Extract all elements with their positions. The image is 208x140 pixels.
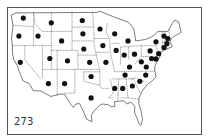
state-marker-dot [112, 86, 117, 91]
state-marker-dot [100, 43, 105, 48]
state-border [64, 69, 75, 93]
state-border [121, 46, 142, 47]
state-marker-dot [143, 73, 148, 78]
state-border [25, 46, 41, 79]
state-marker-dot [130, 83, 135, 88]
state-marker-dot [103, 60, 108, 65]
state-marker-dot [156, 51, 161, 56]
country-outline [11, 11, 181, 125]
state-marker-dot [164, 41, 169, 46]
state-marker-dot [122, 53, 127, 58]
state-marker-dot [35, 34, 40, 39]
state-marker-dot [112, 31, 117, 36]
map-number-label: 273 [14, 116, 34, 127]
state-marker-dot [21, 16, 26, 21]
state-marker-dot [165, 36, 170, 41]
us-map [8, 8, 203, 136]
state-marker-dot [89, 95, 94, 100]
state-marker-dot [153, 56, 158, 61]
state-marker-dot [80, 31, 85, 36]
state-marker-dot [120, 86, 125, 91]
state-marker-dot [18, 60, 23, 65]
us-outline [11, 11, 181, 125]
state-marker-dot [89, 74, 94, 79]
state-marker-dot [80, 18, 85, 23]
state-marker-dot [144, 64, 149, 69]
state-marker-dot [97, 26, 102, 31]
state-marker-dot [132, 52, 137, 57]
state-marker-dot [65, 58, 70, 63]
state-marker-dot [16, 34, 21, 39]
state-marker-dot [127, 64, 132, 69]
state-border [93, 12, 102, 88]
state-marker-dot [62, 81, 67, 86]
state-marker-dot [149, 56, 154, 61]
state-marker-dot [114, 48, 119, 53]
state-marker-dot [59, 38, 64, 43]
state-marker-dot [49, 20, 54, 25]
state-border [128, 98, 138, 99]
state-border [118, 79, 119, 101]
state-marker-dot [137, 79, 142, 84]
state-border [34, 12, 52, 31]
state-marker-dot [81, 46, 86, 51]
state-marker-dot [125, 38, 130, 43]
state-marker-dot [87, 60, 92, 65]
state-border [12, 25, 33, 26]
state-marker-dot [123, 73, 128, 78]
state-marker-dot [153, 39, 158, 44]
state-marker-dot [47, 56, 52, 61]
map-frame [7, 7, 202, 135]
state-marker-dot [148, 48, 153, 53]
state-border [115, 71, 155, 72]
state-marker-dot [139, 59, 144, 64]
state-marker-dot [46, 81, 51, 86]
state-borders [12, 12, 170, 100]
